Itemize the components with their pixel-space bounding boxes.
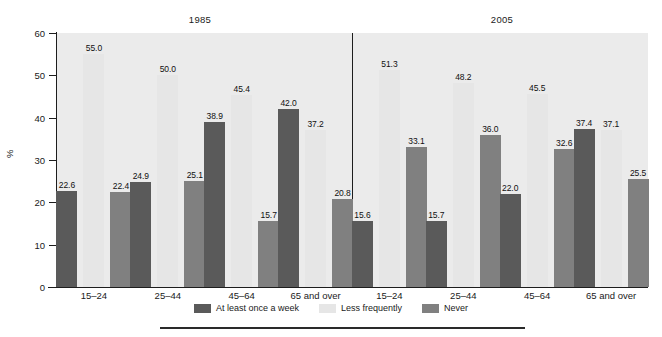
bar-value-label: 42.0	[280, 98, 296, 108]
x-group-label: 15–24	[376, 290, 402, 301]
bar	[184, 181, 205, 287]
bar-value-label: 36.0	[482, 124, 498, 134]
bar-value-label: 25.5	[630, 168, 646, 178]
bar-value-label: 45.4	[234, 84, 250, 94]
bar	[56, 191, 77, 287]
legend-item: Less frequently	[319, 303, 402, 313]
bar	[426, 221, 447, 287]
bar-value-label: 50.0	[160, 64, 176, 74]
bar	[352, 221, 373, 287]
bar-value-label: 22.0	[502, 183, 518, 193]
y-tick-mark	[49, 287, 57, 288]
y-tick-label: 10	[5, 239, 45, 250]
legend-swatch-icon	[319, 304, 336, 313]
y-tick-mark	[49, 33, 57, 34]
legend-label: At least once a week	[216, 303, 299, 313]
bar	[130, 182, 151, 287]
bar-value-label: 51.3	[381, 59, 397, 69]
bar	[628, 179, 649, 287]
y-tick-label: 60	[5, 28, 45, 39]
bar	[204, 122, 225, 287]
bar	[574, 129, 595, 287]
y-tick-label: 50	[5, 70, 45, 81]
x-group-label: 45–64	[524, 290, 550, 301]
bar-value-label: 20.8	[334, 188, 350, 198]
legend-label: Less frequently	[341, 303, 402, 313]
y-axis-tick-labels: 0102030405060	[0, 0, 45, 337]
panel-title-2005: 2005	[462, 14, 542, 25]
x-axis-line	[48, 287, 648, 288]
bar-value-label: 15.7	[428, 210, 444, 220]
legend-swatch-icon	[194, 304, 211, 313]
bar	[278, 109, 299, 287]
bar-value-label: 37.1	[603, 119, 619, 129]
y-tick-mark	[49, 160, 57, 161]
bar	[332, 199, 353, 287]
bar-value-label: 24.9	[133, 171, 149, 181]
y-tick-mark	[49, 75, 57, 76]
legend-swatch-icon	[422, 304, 439, 313]
legend-item: Never	[422, 303, 468, 313]
bar	[157, 75, 178, 287]
bar	[601, 130, 622, 287]
bar-value-label: 15.7	[261, 210, 277, 220]
bar-value-label: 25.1	[187, 170, 203, 180]
bar	[453, 83, 474, 287]
bar	[83, 54, 104, 287]
legend-label: Never	[444, 303, 468, 313]
y-axis-title: %	[4, 150, 15, 158]
bar	[110, 192, 131, 287]
bar	[406, 147, 427, 287]
bar	[305, 130, 326, 287]
y-tick-label: 40	[5, 112, 45, 123]
bar-value-label: 22.6	[59, 180, 75, 190]
bottom-rule	[160, 327, 525, 329]
x-group-label: 25–44	[450, 290, 476, 301]
bar-value-label: 32.6	[556, 138, 572, 148]
x-group-label: 65 and over	[290, 290, 340, 301]
bar-value-label: 33.1	[408, 136, 424, 146]
chart-legend: At least once a weekLess frequentlyNever	[0, 303, 662, 313]
bar-value-label: 38.9	[207, 111, 223, 121]
bar	[258, 221, 279, 287]
x-group-label: 65 and over	[586, 290, 636, 301]
bar-value-label: 37.2	[307, 119, 323, 129]
y-tick-mark	[49, 118, 57, 119]
y-tick-label: 20	[5, 197, 45, 208]
bar	[379, 70, 400, 287]
x-group-label: 15–24	[81, 290, 107, 301]
bar-value-label: 48.2	[455, 72, 471, 82]
bar-value-label: 22.4	[113, 181, 129, 191]
x-group-label: 25–44	[155, 290, 181, 301]
x-group-label: 45–64	[228, 290, 254, 301]
bar-value-label: 45.5	[529, 83, 545, 93]
bar	[527, 94, 548, 287]
y-tick-label: 0	[5, 282, 45, 293]
legend-item: At least once a week	[194, 303, 299, 313]
bar	[500, 194, 521, 287]
bar	[554, 149, 575, 287]
bar	[231, 95, 252, 287]
panel-title-1985: 1985	[160, 14, 240, 25]
bar-value-label: 37.4	[576, 118, 592, 128]
bar	[480, 135, 501, 287]
bar-value-label: 55.0	[86, 43, 102, 53]
bar-value-label: 15.6	[354, 210, 370, 220]
